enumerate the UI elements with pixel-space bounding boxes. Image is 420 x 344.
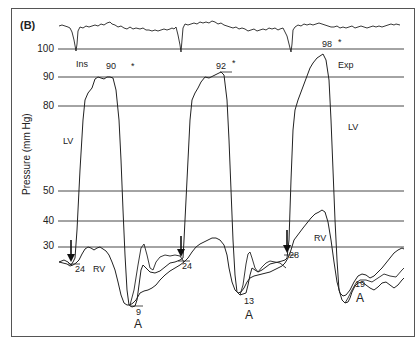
peak-label-1: 90 <box>106 62 116 71</box>
a-wave-label-2: A <box>245 309 253 321</box>
ins-label: Ins <box>76 60 88 69</box>
y-tick-30: 30 <box>24 241 54 251</box>
min-value-2: 13 <box>244 297 254 306</box>
y-tick-80: 80 <box>24 101 54 111</box>
rv-label-left: RV <box>93 265 105 274</box>
ed-value-2: 24 <box>182 262 192 271</box>
a-wave-label-1: A <box>134 318 142 330</box>
rv-label-right: RV <box>314 234 326 243</box>
y-tick-40: 40 <box>24 216 54 226</box>
y-tick-100: 100 <box>24 44 54 54</box>
lv-label-right: LV <box>348 123 358 132</box>
lv-label-left: LV <box>63 137 73 146</box>
lv-pressure-trace <box>59 54 404 307</box>
ed-value-1: 24 <box>75 265 85 274</box>
peak-star-3: * <box>338 38 342 47</box>
y-tick-90: 90 <box>24 72 54 82</box>
ed-value-3: 28 <box>289 251 299 260</box>
respiration-trace <box>59 21 400 52</box>
peak-label-3: 98 <box>322 40 332 49</box>
a-wave-label-3: A <box>356 292 364 304</box>
peak-star-1: * <box>131 62 135 71</box>
min-value-1: 9 <box>136 308 141 317</box>
end-diastolic-arrows <box>67 230 291 262</box>
exp-label: Exp <box>338 61 354 70</box>
y-tick-50: 50 <box>24 186 54 196</box>
min-value-3: 19 <box>355 280 365 289</box>
y-axis-label: Pressure (mm Hg) <box>22 113 32 195</box>
peak-star-2: * <box>232 59 236 68</box>
grid-lines <box>58 49 404 247</box>
peak-label-2: 92 <box>216 62 226 71</box>
panel-label: (B) <box>20 20 35 31</box>
